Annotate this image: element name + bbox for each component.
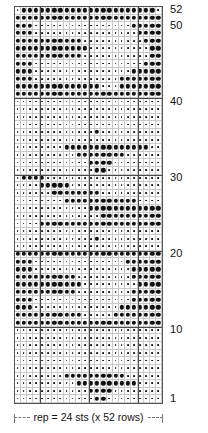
empty-stitch-dot bbox=[127, 70, 129, 72]
empty-stitch-dot bbox=[17, 139, 19, 141]
empty-stitch-dot bbox=[17, 230, 19, 232]
empty-stitch-dot bbox=[158, 185, 160, 187]
filled-stitch-dot bbox=[138, 77, 142, 81]
empty-stitch-dot bbox=[151, 154, 153, 156]
empty-stitch-dot bbox=[133, 124, 135, 126]
empty-stitch-dot bbox=[78, 329, 80, 331]
filled-stitch-dot bbox=[46, 290, 50, 294]
empty-stitch-dot bbox=[78, 291, 80, 293]
empty-stitch-dot bbox=[41, 78, 43, 80]
empty-stitch-dot bbox=[96, 78, 98, 80]
empty-stitch-dot bbox=[17, 108, 19, 110]
empty-stitch-dot bbox=[121, 108, 123, 110]
empty-stitch-dot bbox=[158, 383, 160, 385]
filled-stitch-dot bbox=[22, 39, 26, 43]
empty-stitch-dot bbox=[53, 238, 55, 240]
filled-stitch-dot bbox=[89, 8, 93, 12]
empty-stitch-dot bbox=[102, 337, 104, 339]
empty-stitch-dot bbox=[29, 101, 31, 103]
empty-stitch-dot bbox=[84, 398, 86, 400]
filled-stitch-dot bbox=[156, 84, 160, 88]
empty-stitch-dot bbox=[115, 78, 117, 80]
filled-stitch-dot bbox=[138, 259, 142, 263]
empty-stitch-dot bbox=[35, 390, 37, 392]
empty-stitch-dot bbox=[90, 32, 92, 34]
empty-stitch-dot bbox=[115, 32, 117, 34]
empty-stitch-dot bbox=[72, 25, 74, 27]
filled-stitch-dot bbox=[71, 374, 75, 378]
empty-stitch-dot bbox=[145, 192, 147, 194]
filled-stitch-dot bbox=[150, 290, 154, 294]
empty-stitch-dot bbox=[133, 398, 135, 400]
empty-stitch-dot bbox=[145, 390, 147, 392]
filled-stitch-dot bbox=[138, 92, 142, 96]
filled-stitch-dot bbox=[15, 84, 19, 88]
filled-stitch-dot bbox=[71, 252, 75, 256]
empty-stitch-dot bbox=[35, 108, 37, 110]
empty-stitch-dot bbox=[102, 367, 104, 369]
empty-stitch-dot bbox=[109, 291, 111, 293]
empty-stitch-dot bbox=[102, 25, 104, 27]
filled-stitch-dot bbox=[150, 305, 154, 309]
filled-stitch-dot bbox=[144, 8, 148, 12]
filled-stitch-dot bbox=[95, 252, 99, 256]
empty-stitch-dot bbox=[53, 207, 55, 209]
empty-stitch-dot bbox=[47, 245, 49, 247]
empty-stitch-dot bbox=[60, 383, 62, 385]
empty-stitch-dot bbox=[66, 124, 68, 126]
empty-stitch-dot bbox=[41, 146, 43, 148]
filled-stitch-dot bbox=[95, 168, 99, 172]
empty-stitch-dot bbox=[53, 215, 55, 217]
empty-stitch-dot bbox=[29, 367, 31, 369]
empty-stitch-dot bbox=[145, 47, 147, 49]
empty-stitch-dot bbox=[115, 367, 117, 369]
empty-stitch-dot bbox=[47, 177, 49, 179]
filled-stitch-dot bbox=[22, 290, 26, 294]
filled-stitch-dot bbox=[150, 259, 154, 263]
empty-stitch-dot bbox=[127, 108, 129, 110]
empty-stitch-dot bbox=[139, 390, 141, 392]
empty-stitch-dot bbox=[29, 352, 31, 354]
empty-stitch-dot bbox=[96, 55, 98, 57]
chart-cell bbox=[156, 235, 162, 243]
filled-stitch-dot bbox=[22, 84, 26, 88]
filled-stitch-dot bbox=[22, 8, 26, 12]
filled-stitch-dot bbox=[120, 84, 124, 88]
empty-stitch-dot bbox=[47, 200, 49, 202]
empty-stitch-dot bbox=[66, 169, 68, 171]
filled-stitch-dot bbox=[28, 84, 32, 88]
empty-stitch-dot bbox=[96, 32, 98, 34]
empty-stitch-dot bbox=[47, 390, 49, 392]
filled-stitch-dot bbox=[64, 145, 68, 149]
empty-stitch-dot bbox=[66, 162, 68, 164]
empty-stitch-dot bbox=[35, 367, 37, 369]
filled-stitch-dot bbox=[89, 199, 93, 203]
empty-stitch-dot bbox=[47, 238, 49, 240]
empty-stitch-dot bbox=[133, 139, 135, 141]
filled-stitch-dot bbox=[120, 374, 124, 378]
empty-stitch-dot bbox=[102, 47, 104, 49]
filled-stitch-dot bbox=[138, 16, 142, 20]
empty-stitch-dot bbox=[53, 139, 55, 141]
empty-stitch-dot bbox=[121, 47, 123, 49]
empty-stitch-dot bbox=[84, 177, 86, 179]
empty-stitch-dot bbox=[72, 108, 74, 110]
filled-stitch-dot bbox=[144, 23, 148, 27]
filled-stitch-dot bbox=[40, 16, 44, 20]
filled-stitch-dot bbox=[144, 61, 148, 65]
empty-stitch-dot bbox=[115, 169, 117, 171]
empty-stitch-dot bbox=[121, 101, 123, 103]
filled-stitch-dot bbox=[132, 290, 136, 294]
empty-stitch-dot bbox=[53, 299, 55, 301]
chart-cell bbox=[156, 289, 162, 297]
empty-stitch-dot bbox=[133, 154, 135, 156]
filled-stitch-dot bbox=[95, 221, 99, 225]
empty-stitch-dot bbox=[60, 169, 62, 171]
empty-stitch-dot bbox=[35, 245, 37, 247]
empty-stitch-dot bbox=[66, 25, 68, 27]
filled-stitch-dot bbox=[22, 54, 26, 58]
filled-stitch-dot bbox=[22, 16, 26, 20]
empty-stitch-dot bbox=[72, 169, 74, 171]
empty-stitch-dot bbox=[109, 352, 111, 354]
empty-stitch-dot bbox=[66, 131, 68, 133]
